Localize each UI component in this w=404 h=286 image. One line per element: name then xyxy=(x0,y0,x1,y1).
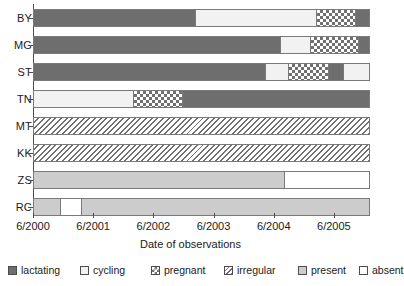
bar-segment-absent xyxy=(60,198,80,216)
bar-segment-lactating xyxy=(33,36,280,54)
timeline-bar xyxy=(33,9,370,27)
legend-swatch-present-icon xyxy=(298,266,307,275)
legend-swatch-pregnant-icon xyxy=(151,266,160,275)
legend-label: absent xyxy=(372,265,404,276)
bar-segment-lactating xyxy=(33,9,195,27)
legend-item-lactating[interactable]: lactating xyxy=(8,265,60,276)
x-tick-label: 6/2001 xyxy=(61,220,125,232)
bar-segment-lactating xyxy=(355,9,370,27)
legend-swatch-cycling-icon xyxy=(80,266,89,275)
legend-swatch-absent-icon xyxy=(359,266,368,275)
y-tick-mt xyxy=(28,126,33,127)
x-tick xyxy=(33,213,34,218)
x-tick-label: 6/2005 xyxy=(302,220,366,232)
bar-segment-lactating xyxy=(328,63,343,81)
x-tick-label: 6/2004 xyxy=(242,220,306,232)
x-tick-label: 6/2000 xyxy=(1,220,65,232)
bar-segment-irregular xyxy=(33,117,370,135)
timeline-bar xyxy=(33,171,370,189)
bar-segment-cycling xyxy=(280,36,309,54)
bar-segment-lactating xyxy=(33,63,265,81)
bar-segment-pregnant xyxy=(310,36,358,54)
bar-segment-present xyxy=(81,198,370,216)
bar-segment-cycling xyxy=(265,63,287,81)
bar-segment-cycling xyxy=(195,9,315,27)
y-tick-by xyxy=(28,18,33,19)
x-axis-title: Date of observations xyxy=(0,238,381,250)
y-tick-tn xyxy=(28,99,33,100)
x-tick xyxy=(274,213,275,218)
bar-segment-irregular xyxy=(33,144,370,162)
x-tick xyxy=(153,213,154,218)
legend-label: present xyxy=(311,265,346,276)
legend-label: cycling xyxy=(93,265,125,276)
bar-segment-cycling xyxy=(343,63,370,81)
bar-segment-lactating xyxy=(182,90,370,108)
x-tick xyxy=(214,213,215,218)
legend-label: irregular xyxy=(237,265,276,276)
bar-segment-pregnant xyxy=(133,90,181,108)
legend-label: lactating xyxy=(21,265,60,276)
x-tick-label: 6/2002 xyxy=(121,220,185,232)
timeline-bar xyxy=(33,144,370,162)
x-tick xyxy=(334,213,335,218)
y-tick-st xyxy=(28,72,33,73)
y-tick-kk xyxy=(28,153,33,154)
bar-segment-present xyxy=(33,171,284,189)
chart-legend: lactatingcyclingpregnantirregularpresent… xyxy=(8,262,373,278)
timeline-bar xyxy=(33,63,370,81)
legend-item-absent[interactable]: absent xyxy=(359,265,404,276)
legend-label: pregnant xyxy=(164,265,205,276)
x-tick xyxy=(93,213,94,218)
bar-segment-pregnant xyxy=(316,9,355,27)
legend-item-irregular[interactable]: irregular xyxy=(224,265,276,276)
y-tick-rc xyxy=(28,207,33,208)
y-tick-mg xyxy=(28,45,33,46)
bar-segment-pregnant xyxy=(288,63,328,81)
bar-segment-cycling xyxy=(33,90,133,108)
bar-segment-present xyxy=(33,198,60,216)
x-tick-label: 6/2003 xyxy=(182,220,246,232)
legend-swatch-lactating-icon xyxy=(8,266,17,275)
bar-segment-absent xyxy=(284,171,370,189)
timeline-bar xyxy=(33,90,370,108)
bar-segment-lactating xyxy=(358,36,370,54)
legend-item-pregnant[interactable]: pregnant xyxy=(151,265,205,276)
legend-item-cycling[interactable]: cycling xyxy=(80,265,125,276)
legend-swatch-irregular-icon xyxy=(224,266,233,275)
legend-item-present[interactable]: present xyxy=(298,265,346,276)
timeline-bar xyxy=(33,36,370,54)
timeline-bar xyxy=(33,117,370,135)
y-tick-zs xyxy=(28,180,33,181)
timeline-bar xyxy=(33,198,370,216)
plot-area: BYMGSTTNMTKKZSRC xyxy=(0,0,381,215)
